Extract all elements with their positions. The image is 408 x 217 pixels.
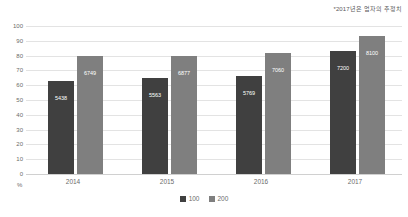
bar-group: 54386749 (26, 26, 120, 174)
bar[interactable]: 7060 (265, 53, 291, 174)
bar-group: 55636877 (120, 26, 214, 174)
bar[interactable]: 5769 (236, 76, 262, 174)
y-axis-tick-label: 90 (16, 38, 23, 44)
bar[interactable]: 8100 (359, 36, 385, 174)
chart-legend: 100200 (0, 195, 408, 202)
legend-label: 200 (218, 195, 229, 202)
y-axis-tick-label: 80 (16, 53, 23, 59)
bar-value-label: 6749 (77, 70, 103, 76)
bar[interactable]: 6877 (171, 56, 197, 174)
bar-value-label: 5563 (142, 92, 168, 98)
bar-value-label: 7200 (330, 65, 356, 71)
bar[interactable]: 6749 (77, 56, 103, 174)
chart-annotation: *2017년은 업자의 추정치 (333, 5, 402, 14)
bar-groups: 54386749556368775769706072008100 (26, 26, 402, 174)
y-axis-tick-label: 50 (16, 97, 23, 103)
x-axis-tick-label: 2016 (214, 178, 308, 186)
legend-swatch-icon (209, 196, 215, 202)
x-axis-tick-label: 2014 (26, 178, 120, 186)
legend-item[interactable]: 200 (209, 195, 229, 202)
bar[interactable]: 5563 (142, 78, 168, 174)
y-axis-tick-label: 30 (16, 127, 23, 133)
bar-value-label: 5438 (48, 95, 74, 101)
x-axis-tick-label: 2015 (120, 178, 214, 186)
bar[interactable]: 7200 (330, 51, 356, 174)
y-axis-tick-label: 60 (16, 82, 23, 88)
y-axis-tick-label: 20 (16, 141, 23, 147)
bar-group: 57697060 (214, 26, 308, 174)
legend-label: 100 (189, 195, 200, 202)
y-axis-tick-label: 100 (13, 23, 23, 29)
bar-value-label: 8100 (359, 50, 385, 56)
y-axis-tick-label: 10 (16, 156, 23, 162)
x-axis-tick-label: 2017 (308, 178, 402, 186)
y-axis-tick-label: 0 (20, 171, 23, 177)
y-axis: 1009080706050403020100 (0, 26, 26, 174)
plot-area: 54386749556368775769706072008100 (26, 26, 402, 174)
bar-group: 72008100 (308, 26, 402, 174)
legend-swatch-icon (180, 196, 186, 202)
legend-item[interactable]: 100 (180, 195, 200, 202)
bar-value-label: 7060 (265, 67, 291, 73)
gridline (26, 174, 402, 175)
x-axis: 2014201520162017 (26, 178, 402, 186)
bar-chart: *2017년은 업자의 추정치 1009080706050403020100 %… (0, 0, 408, 217)
y-axis-tick-label: 40 (16, 112, 23, 118)
y-axis-tick-label: 70 (16, 67, 23, 73)
bar-value-label: 5769 (236, 90, 262, 96)
y-axis-unit-label: % (17, 182, 22, 188)
bar[interactable]: 5438 (48, 81, 74, 174)
bar-value-label: 6877 (171, 70, 197, 76)
